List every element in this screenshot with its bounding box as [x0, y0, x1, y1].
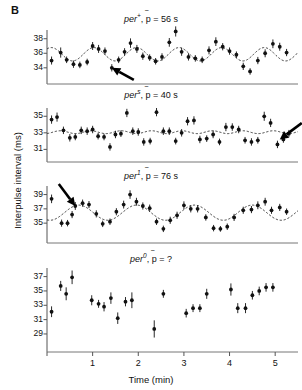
period-unknown: ? — [167, 254, 172, 264]
subplot-per-s: pers, p = 40 s — [0, 85, 302, 171]
y-tick-label: 33 — [16, 127, 43, 137]
gene-name: per — [130, 254, 143, 264]
gene-name: per — [124, 171, 137, 181]
y-tick-label: 31 — [16, 143, 43, 153]
period-value: 40 — [161, 90, 171, 100]
subplot-title-per-s: pers, p = 40 s — [0, 88, 302, 100]
x-tick-label: 4 — [220, 358, 240, 368]
x-tick-label: 2 — [128, 358, 148, 368]
gene-allele-superscript: 0 — [143, 252, 147, 259]
period-value: 56 — [161, 14, 171, 24]
gene-allele-superscript: 1 — [137, 169, 141, 176]
y-tick-label: 34 — [16, 62, 43, 72]
y-tick-label: 36 — [16, 47, 43, 57]
gene-allele-superscript: s — [137, 88, 140, 95]
y-tick-label: 35 — [16, 110, 43, 120]
x-tick-label: 3 — [174, 358, 194, 368]
period-symbol: p — [146, 14, 151, 24]
gene-allele-superscript: + — [137, 12, 141, 19]
y-tick-label: 33 — [16, 299, 43, 309]
x-tick-label: 5 — [265, 358, 285, 368]
figure-panel-b: B Interpulse interval (ms) Time (min) pe… — [0, 0, 302, 390]
subplot-per-plus: per+, p = 56 s — [0, 0, 302, 90]
x-axis-label: Time (min) — [0, 374, 302, 385]
y-tick-label: 29 — [16, 328, 43, 338]
subplot-per-1: per1, p = 76 s — [0, 166, 302, 254]
gene-name: per — [124, 90, 137, 100]
y-tick-label: 35 — [16, 217, 43, 227]
period-value: 76 — [161, 171, 171, 181]
gene-name: per — [124, 14, 137, 24]
period-symbol: p — [152, 254, 157, 264]
subplot-title-per-plus: per+, p = 56 s — [0, 12, 302, 24]
y-tick-label: 37 — [16, 271, 43, 281]
y-tick-label: 31 — [16, 314, 43, 324]
subplot-title-per-0: per0, p = ? — [0, 252, 302, 264]
y-tick-label: 35 — [16, 285, 43, 295]
y-tick-label: 38 — [16, 33, 43, 43]
y-tick-label: 37 — [16, 203, 43, 213]
x-tick-label: 1 — [83, 358, 103, 368]
period-symbol: p — [146, 171, 151, 181]
subplot-per-0: per0, p = ? — [0, 249, 302, 369]
subplot-title-per-1: per1, p = 76 s — [0, 169, 302, 181]
y-tick-label: 39 — [16, 189, 43, 199]
period-symbol: p — [145, 90, 150, 100]
